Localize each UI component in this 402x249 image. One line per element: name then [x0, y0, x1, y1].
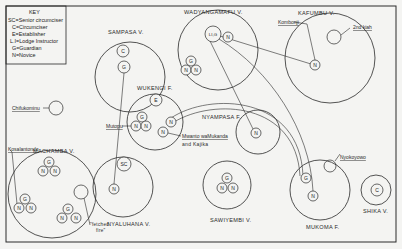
person-node: N — [181, 65, 191, 75]
person-node: N — [131, 121, 141, 131]
node-role: N — [17, 205, 21, 211]
key-entry: E=Establisher — [12, 31, 46, 37]
node-role: N — [161, 129, 165, 135]
person-node: C — [117, 45, 129, 57]
person-node: G — [20, 194, 30, 204]
village-sawiyembi: SAWIYEMBI V. — [203, 161, 252, 223]
village-label: SHIKA V. — [363, 208, 388, 214]
node-role: LI,G — [209, 32, 218, 37]
village-label: MUKOMA F. — [306, 224, 340, 230]
label-2nd-kiah: 2nd kiah — [353, 24, 372, 30]
person-node: G — [63, 204, 73, 214]
village-circle — [178, 10, 258, 90]
person-node: C — [371, 184, 383, 196]
person-node: G — [44, 157, 54, 167]
node-role: N — [29, 205, 33, 211]
village-label: NYAMPASA F. — [202, 114, 241, 120]
label-chifukominu: Chifukominu — [12, 105, 40, 111]
person-node: N — [310, 60, 320, 70]
person-node: SC — [117, 157, 131, 171]
node-role: N — [254, 130, 258, 136]
circumcision-lodge-diagram: KEY SC=Senior circumciser C=Circumciser … — [0, 0, 402, 249]
person-node: N — [141, 121, 151, 131]
empty-hut-circle — [327, 30, 341, 44]
node-role: N — [60, 215, 64, 221]
empty-hut-circle — [74, 185, 88, 199]
diagram-canvas: KEY SC=Senior circumciser C=Circumciser … — [0, 0, 402, 249]
node-role: N — [144, 123, 148, 129]
key-entry: SC=Senior circumciser — [8, 17, 63, 23]
node-role: C — [375, 187, 379, 193]
person-node: N — [228, 183, 238, 193]
person-node: E — [150, 94, 162, 106]
node-role: G — [23, 196, 27, 202]
connection-lines — [10, 22, 350, 225]
person-node: N — [166, 117, 176, 127]
person-node: N — [308, 191, 318, 201]
person-node: N — [223, 32, 233, 42]
village-label: MACHAMBA V. — [33, 148, 75, 154]
village-label: WUKENGI F. — [137, 85, 173, 91]
node-role: N — [311, 193, 315, 199]
node-role: G — [47, 159, 51, 165]
village-layer: SAMPASA V.WADYANGAMAFU V.KAFUMBU V.WUKEN… — [8, 9, 391, 238]
label-mwanto-and: and Kajika — [182, 141, 208, 147]
person-node: N — [57, 213, 67, 223]
node-role: N — [112, 186, 116, 192]
village-wadyangamafu: WADYANGAMAFU V. — [178, 9, 258, 90]
key-entry: N=Novice — [12, 52, 36, 58]
node-role: N — [169, 119, 173, 125]
node-role: G — [304, 175, 308, 181]
label-kosalantondo: Kosalantondo — [8, 146, 39, 152]
node-role: N — [194, 67, 198, 73]
label-nyokoyowo: Nyokoyowo — [340, 154, 366, 160]
village-label: SAMPASA V. — [108, 29, 144, 35]
node-role: N — [184, 67, 188, 73]
person-node: N — [217, 183, 227, 193]
person-node: N — [158, 127, 168, 137]
person-node: G — [118, 61, 130, 73]
node-role: N — [53, 168, 57, 174]
village-label: NYALUHANA V. — [107, 221, 151, 227]
person-node: N — [191, 65, 201, 75]
node-role: N — [313, 62, 317, 68]
village-circle — [290, 160, 350, 220]
village-nyampasa: NYAMPASA F. — [202, 110, 280, 154]
node-role: G — [225, 175, 229, 181]
person-node: N — [38, 166, 48, 176]
node-layer: CGLI,GNGNNNEGNNNNNSCNGNNGNNGNNGNNGNC — [14, 26, 383, 223]
node-role: C — [121, 48, 125, 54]
key-entry: C=Circumciser — [12, 24, 48, 30]
node-role: G — [140, 114, 144, 120]
person-node: N — [109, 184, 119, 194]
village-mukoma: MUKOMA F. — [290, 160, 350, 230]
person-node: N — [14, 203, 24, 213]
leader-2nd-kiah — [341, 28, 350, 35]
node-role: N — [74, 215, 78, 221]
node-role: N — [134, 123, 138, 129]
person-node: N — [50, 166, 60, 176]
label-fetched-fire: "fetched — [90, 222, 109, 227]
village-label: WADYANGAMAFU V. — [184, 9, 243, 15]
label-mwanto: Mwanto waMukanda — [182, 133, 228, 139]
village-circle — [203, 161, 251, 209]
empty-hut-circle — [49, 101, 63, 115]
person-node: N — [26, 203, 36, 213]
village-label: KAFUMBU V. — [298, 10, 335, 16]
line-wadyangamafu-kafumbu — [220, 36, 311, 64]
village-label: SAWIYEMBI V. — [210, 217, 252, 223]
node-role: N — [231, 185, 235, 191]
node-role: SC — [121, 161, 128, 167]
person-node: G — [186, 56, 196, 66]
label-fetched-fire-2: fire" — [96, 228, 106, 233]
key-title: KEY — [29, 9, 40, 15]
key-legend: KEY SC=Senior circumciser C=Circumciser … — [6, 6, 66, 64]
person-node: G — [222, 173, 232, 183]
label-kombonji: Kombonji — [278, 19, 299, 25]
label-mutopu: Mutopu — [106, 123, 123, 129]
person-node: N — [251, 128, 261, 138]
person-node: G — [301, 173, 311, 183]
empty-circle-layer — [49, 30, 341, 199]
person-node: LI,G — [205, 26, 221, 42]
node-role: N — [226, 34, 230, 40]
